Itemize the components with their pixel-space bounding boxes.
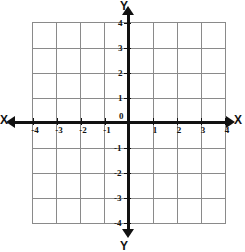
y-axis-down-arrow-icon <box>122 229 134 238</box>
y-axis-tickmark <box>124 223 131 224</box>
y-tick-label: -3 <box>114 194 122 203</box>
x-axis-label-left: X <box>0 114 8 126</box>
x-tick-label: 3 <box>201 126 206 135</box>
x-axis-label-right: X <box>234 114 242 126</box>
y-tick-label: -2 <box>114 169 122 178</box>
x-axis-tickmark <box>33 118 34 125</box>
x-axis-tickmark <box>105 118 106 125</box>
x-axis-tickmark <box>153 118 154 125</box>
x-axis-tickmark <box>225 118 226 125</box>
y-axis-tickmark <box>124 148 131 149</box>
y-tick-label: -1 <box>114 144 122 153</box>
y-axis-tickmark <box>124 98 131 99</box>
y-axis-tickmark <box>124 173 131 174</box>
x-tick-label: -1 <box>103 126 111 135</box>
x-axis-tickmark <box>177 118 178 125</box>
y-axis-label-bottom: Y <box>120 240 128 252</box>
x-tick-label: -2 <box>79 126 87 135</box>
y-tick-label: -4 <box>114 219 122 228</box>
y-axis-line <box>127 14 130 232</box>
y-tick-label: 3 <box>118 44 123 53</box>
y-axis-tickmark <box>124 23 131 24</box>
coordinate-plane-figure: X X Y Y -4 -3 -2 -1 1 2 3 4 4 3 2 1 -1 -… <box>0 0 245 252</box>
x-tick-label: 1 <box>153 126 158 135</box>
y-axis-tickmark <box>124 73 131 74</box>
y-tick-label: 2 <box>118 69 123 78</box>
y-tick-label: 4 <box>118 19 123 28</box>
y-axis-tickmark <box>124 48 131 49</box>
x-axis-tickmark <box>201 118 202 125</box>
x-tick-label: -4 <box>31 126 39 135</box>
y-axis-tickmark <box>124 198 131 199</box>
x-axis-tickmark <box>57 118 58 125</box>
x-tick-label: 2 <box>177 126 182 135</box>
origin-label: 0 <box>119 112 124 121</box>
x-axis-tickmark <box>81 118 82 125</box>
x-tick-label: 4 <box>225 126 230 135</box>
y-tick-label: 1 <box>118 94 123 103</box>
x-tick-label: -3 <box>55 126 63 135</box>
x-axis-line <box>14 121 228 124</box>
y-axis-label-top: Y <box>120 0 128 12</box>
